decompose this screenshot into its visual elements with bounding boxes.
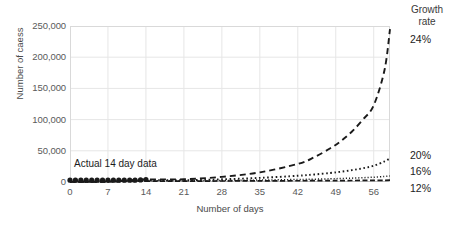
x-axis-tick-label: 28 <box>202 186 242 197</box>
x-axis-tick-label: 0 <box>50 186 90 197</box>
y-axis-tick-label: 150,000 <box>4 83 66 93</box>
legend-title: Growth rate <box>398 4 456 27</box>
legend-title-line-1: Growth <box>398 4 456 16</box>
legend-entry-20pct: 20% <box>410 149 460 161</box>
x-axis-tick-label: 7 <box>88 186 128 197</box>
y-axis-tick-label: 200,000 <box>4 52 66 62</box>
actual-data-markers <box>67 177 148 183</box>
y-axis-tick-label: 100,000 <box>4 115 66 125</box>
actual-data-annotation: Actual 14 day data <box>74 158 157 170</box>
y-axis-tick-labels: 050,000100,000150,000200,000250,000 <box>0 26 66 182</box>
legend-title-line-2: rate <box>398 16 456 28</box>
legend-entry-12pct: 12% <box>410 182 460 194</box>
x-axis-tick-label: 14 <box>126 186 166 197</box>
x-axis-tick-labels: 0714212835424956 <box>70 186 390 200</box>
legend-entry-16pct: 16% <box>410 165 460 177</box>
x-axis-tick-label: 21 <box>164 186 204 197</box>
x-axis-tick-label: 35 <box>240 186 280 197</box>
x-axis-tick-label: 56 <box>354 186 394 197</box>
y-axis-tick-label: 250,000 <box>4 21 66 31</box>
legend-entry-24pct: 24% <box>410 33 460 45</box>
x-axis-title: Number of days <box>70 203 390 215</box>
x-axis-tick-label: 49 <box>316 186 356 197</box>
growth-rate-chart: Number of caess 050,000100,000150,000200… <box>0 0 469 228</box>
legend: Growth rate 24%20%16%12% <box>398 4 466 224</box>
y-axis-tick-label: 50,000 <box>4 146 66 156</box>
x-axis-tick-label: 42 <box>278 186 318 197</box>
